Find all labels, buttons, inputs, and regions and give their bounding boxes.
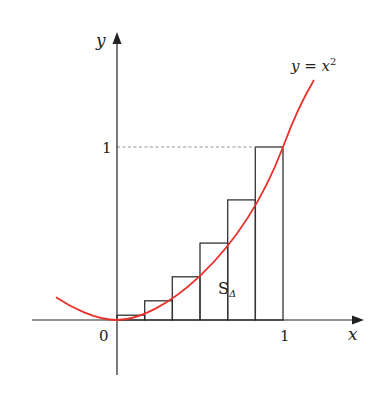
x-axis-label: x [348,324,358,344]
y-tick-label: 1 [102,139,112,157]
curve-label-exponent: 2 [330,56,336,67]
rectangle-2 [145,301,173,320]
area-label: SΔ [218,279,236,299]
y-axis-label: y [95,30,106,50]
y-axis-arrow-icon [113,32,122,44]
area-label-base: S [218,279,229,298]
rectangle-5 [228,200,256,320]
curve-label: y = x2 [290,56,336,75]
x-tick-label: 1 [280,327,290,345]
rectangle-6 [255,147,283,320]
curve-label-base: y = x [290,57,331,75]
riemann-rectangles [117,147,283,320]
riemann-sum-diagram: y x 0 1 1 y = x2 SΔ [0,0,385,406]
area-label-subscript: Δ [228,288,236,299]
origin-label: 0 [99,327,109,345]
rectangle-3 [172,277,200,320]
parabola-curve [56,80,314,320]
